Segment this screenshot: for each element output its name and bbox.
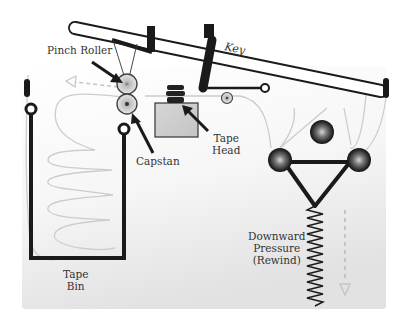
pressure-label-line3: (Rewind)	[248, 254, 305, 266]
tape-head-label: Tape Head	[212, 132, 240, 156]
pressure-label-line1: Downward	[248, 230, 305, 242]
downward-pressure-label: Downward Pressure (Rewind)	[248, 230, 305, 266]
tape-bin-label: Tape Bin	[63, 268, 88, 292]
tape-mechanism-diagram: Key Pinch Roller Capstan Tape Head Tape …	[0, 0, 410, 319]
tension-roller-top[interactable]	[310, 120, 334, 144]
pinch-roller-label: Pinch Roller	[47, 44, 112, 56]
tape-bin-label-line2: Bin	[63, 280, 88, 292]
tape-head-label-line1: Tape	[212, 132, 240, 144]
tape-head-label-line2: Head	[212, 144, 240, 156]
tension-roller-left[interactable]	[268, 148, 292, 172]
tension-roller-right[interactable]	[347, 148, 371, 172]
tape-bin-label-line1: Tape	[63, 268, 88, 280]
pressure-label-line2: Pressure	[248, 242, 305, 254]
pinch-roller[interactable]	[117, 74, 137, 94]
tape-guide-roller	[222, 93, 233, 104]
capstan[interactable]	[117, 94, 137, 114]
capstan-label: Capstan	[136, 155, 180, 167]
